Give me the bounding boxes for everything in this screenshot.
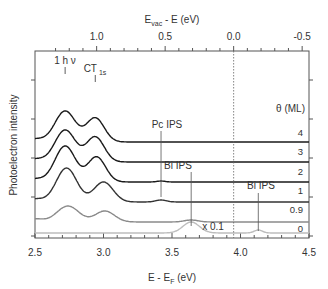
x-tick-label: 4.0 xyxy=(234,247,248,258)
series-line-0-9 xyxy=(35,206,309,222)
legend-title: θ (ML) xyxy=(276,103,305,114)
x-tick-label: 3.0 xyxy=(97,247,111,258)
series-label: 0.9 xyxy=(290,204,303,215)
ipe-spectra-chart: 2.53.03.54.04.51.00.50.0-0.5 43210.90 Ev… xyxy=(0,0,328,289)
x2-tick-label: -0.5 xyxy=(294,31,312,42)
y-axis-title: Photoelectron intensity xyxy=(8,94,19,195)
x-tick-label: 4.5 xyxy=(302,247,316,258)
series-label: 2 xyxy=(298,166,303,177)
series-label: 1 xyxy=(298,185,303,196)
top-axis-title: Evac - E (eV) xyxy=(145,14,200,27)
x2-tick-label: 1.0 xyxy=(90,31,104,42)
series-line-3 xyxy=(35,130,309,162)
peak-label-ct: CT1s xyxy=(84,63,107,76)
series-line-0 xyxy=(35,222,309,233)
x2-tick-label: 0.5 xyxy=(158,31,172,42)
annotation-bi-ips-2: Bi IPS xyxy=(247,180,275,191)
x-tick-label: 2.5 xyxy=(28,247,42,258)
annotations-group xyxy=(65,51,258,238)
x-tick-label: 3.5 xyxy=(165,247,179,258)
peak-label-1hv: 1 h ν xyxy=(54,55,76,66)
annotation-bi-ips-1: Bi IPS xyxy=(164,160,192,171)
series-label: 4 xyxy=(298,127,303,138)
annotation-pc-ips: Pc IPS xyxy=(152,119,183,130)
x2-tick-label: 0.0 xyxy=(227,31,241,42)
annotation-scale: x 0.1 xyxy=(202,221,224,232)
series-label: 3 xyxy=(298,146,303,157)
series-label: 0 xyxy=(298,223,303,234)
x-axis-title: E - EF (eV) xyxy=(148,272,196,285)
